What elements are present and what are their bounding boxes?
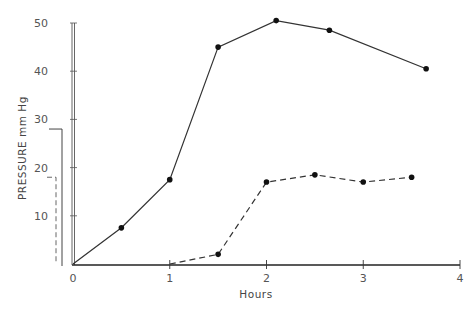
y-tick-label: 20	[34, 162, 48, 175]
series-dashed-point	[215, 252, 221, 258]
x-tick-label: 2	[263, 272, 270, 285]
y-axis-title: PRESSURE mm Hg	[16, 96, 28, 200]
series-dashed-point	[264, 179, 270, 185]
series-solid-point	[273, 18, 279, 24]
series-dashed-line	[170, 175, 412, 264]
series-solid-point	[215, 44, 221, 50]
y-tick-label: 40	[34, 65, 48, 78]
series-solid-point	[423, 66, 429, 72]
series-dashed-point	[312, 172, 318, 178]
x-axis-title: Hours	[239, 288, 272, 300]
legend-bracket-dashed	[47, 177, 56, 262]
series-solid-line	[73, 21, 426, 264]
x-tick-label: 4	[457, 272, 464, 285]
series-layer	[73, 18, 429, 264]
x-tick-label: 0	[70, 272, 77, 285]
pressure-chart: PRESSURE mm Hg 1020304050 01234 Hours	[0, 0, 476, 311]
legend-brackets	[47, 129, 62, 266]
x-tick-label: 1	[166, 272, 173, 285]
series-solid-point	[167, 177, 173, 183]
series-solid-point	[327, 27, 333, 33]
series-dashed-point	[360, 179, 366, 185]
x-ticks: 01234	[70, 260, 464, 285]
series-solid-point	[119, 225, 125, 231]
y-tick-label: 30	[34, 113, 48, 126]
y-tick-label: 50	[34, 17, 48, 30]
x-tick-label: 3	[360, 272, 367, 285]
legend-bracket-solid	[49, 129, 62, 266]
y-ticks: 1020304050	[34, 17, 77, 223]
series-dashed-point	[409, 174, 415, 180]
y-tick-label: 10	[34, 210, 48, 223]
